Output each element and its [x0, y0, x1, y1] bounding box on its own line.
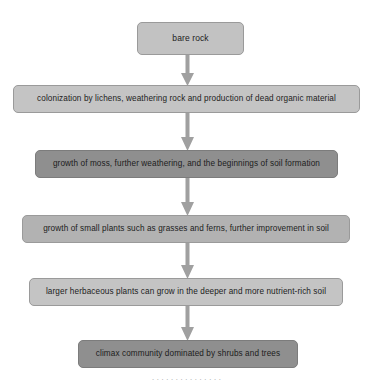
arrow-down-icon	[175, 55, 200, 86]
flow-node-herbaceous-plants: larger herbaceous plants can grow in the…	[29, 278, 343, 306]
flow-node-label: growth of moss, further weathering, and …	[47, 159, 326, 168]
arrow-down-icon	[175, 306, 200, 341]
arrow-down-icon	[175, 178, 200, 216]
flow-node-label: larger herbaceous plants can grow in the…	[40, 287, 332, 296]
flow-node-label: bare rock	[166, 34, 214, 44]
flow-node-label: colonization by lichens, weathering rock…	[31, 94, 342, 103]
clipped-caption-text: . . . . . . . . . . . . . . .	[0, 374, 373, 380]
flow-node-label: climax community dominated by shrubs and…	[90, 349, 286, 358]
flow-node-climax-community: climax community dominated by shrubs and…	[78, 340, 298, 368]
flow-node-colonization: colonization by lichens, weathering rock…	[13, 85, 360, 113]
clipped-caption-remnant: . . . . . . . . . . . . . . .	[0, 374, 373, 380]
flow-node-bare-rock: bare rock	[137, 22, 244, 55]
succession-flowchart: bare rock colonization by lichens, weath…	[0, 0, 373, 380]
flow-node-label: growth of small plants such as grasses a…	[37, 224, 335, 233]
flow-node-moss-growth: growth of moss, further weathering, and …	[35, 150, 338, 178]
flow-node-small-plants: growth of small plants such as grasses a…	[22, 215, 350, 243]
arrow-down-icon	[175, 113, 200, 151]
arrow-down-icon	[175, 243, 200, 279]
